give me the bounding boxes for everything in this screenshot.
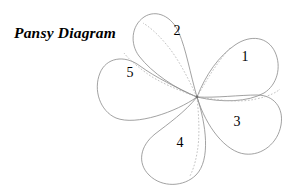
petal-label-5: 5: [127, 65, 134, 80]
petal-hidden-edge-1: [197, 47, 231, 97]
flower-diagram: 1 2 3 4 5: [0, 0, 299, 195]
petal-outline-2: [133, 14, 197, 97]
petal-label-3: 3: [234, 114, 241, 129]
flower-center-point: [196, 96, 199, 99]
petal-label-2: 2: [174, 23, 181, 38]
petal-group-2: 2: [133, 14, 197, 97]
petal-label-4: 4: [177, 135, 184, 150]
petal-group-1: 1: [197, 38, 278, 100]
petal-outline-5: [97, 59, 197, 120]
petal-group-3: 3: [197, 89, 282, 154]
petal-hidden-edge-4: [190, 97, 199, 176]
petal-group-5: 5: [97, 53, 197, 120]
pansy-diagram-page: Pansy Diagram 1 2 3 4 5: [0, 0, 299, 195]
petal-hidden-edge-2: [143, 23, 197, 97]
petal-outline-1: [197, 38, 278, 100]
petal-label-1: 1: [242, 49, 249, 64]
